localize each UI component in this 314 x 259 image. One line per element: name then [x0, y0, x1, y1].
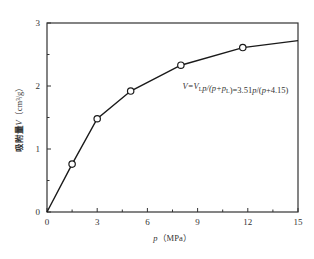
x-tick-label: 9	[195, 217, 200, 227]
data-point-marker	[127, 88, 133, 94]
data-point-marker	[94, 116, 100, 122]
x-tick-label: 12	[243, 217, 252, 227]
x-axis-label: p（MPa）	[152, 233, 191, 243]
x-tick-label: 6	[145, 217, 150, 227]
y-tick-label: 1	[36, 144, 41, 154]
data-point-marker	[178, 62, 184, 68]
y-tick-label: 3	[36, 18, 41, 28]
y-tick-label: 2	[36, 81, 41, 91]
isotherm-chart: 036912150123V=VLp/(p+pL)=3.51p/(p+4.15)p…	[0, 0, 314, 259]
y-axis-label: 吸附量V（cm³/g）	[14, 83, 24, 153]
y-tick-label: 0	[36, 207, 41, 217]
x-tick-label: 3	[95, 217, 100, 227]
data-point-marker	[69, 161, 75, 167]
plot-frame	[47, 23, 298, 212]
x-tick-label: 0	[45, 217, 50, 227]
series-line	[47, 41, 298, 212]
data-point-marker	[240, 44, 246, 50]
x-tick-label: 15	[294, 217, 304, 227]
equation-annotation: V=VLp/(p+pL)=3.51p/(p+4.15)	[183, 81, 289, 95]
